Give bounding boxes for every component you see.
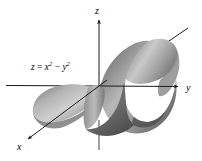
saddle-surface-figure: z y x z = x2 − y2: [0, 0, 202, 161]
saddle-surface: [33, 39, 180, 136]
y-axis-positive-line: [100, 86, 178, 87]
equation-minus: −: [52, 62, 62, 72]
figure-container: z y x z = x2 − y2: [0, 0, 202, 161]
x-axis-label: x: [16, 141, 22, 152]
y-axis-label: y: [185, 82, 191, 93]
equation-equals: =: [35, 62, 45, 72]
equation-term2-exponent: 2: [67, 60, 71, 67]
z-axis-label: z: [94, 5, 99, 16]
surface-bottom-rim: [132, 110, 166, 128]
equation-label: z = x2 − y2: [30, 60, 71, 72]
